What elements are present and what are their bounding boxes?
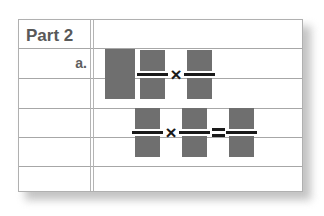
fraction-term	[182, 108, 207, 157]
redacted-numerator-block	[140, 50, 165, 71]
fraction-term	[135, 108, 160, 157]
fraction-bar	[226, 131, 257, 134]
expression-row-2: ×	[135, 106, 254, 158]
fraction-term	[187, 50, 212, 99]
problem-item-label: a.	[26, 55, 87, 72]
fraction-term	[229, 108, 254, 157]
redacted-whole-number-block	[105, 49, 135, 99]
redacted-denominator-block	[187, 78, 212, 99]
fraction-bar	[179, 131, 210, 134]
fraction-term	[140, 50, 165, 99]
fraction-bar	[184, 73, 215, 76]
expression-row-1: ×	[105, 48, 212, 100]
rule-line-5	[19, 166, 302, 167]
equals-bar-bottom	[212, 134, 225, 137]
redacted-denominator-block	[229, 136, 254, 157]
margin-line-outer	[90, 20, 91, 191]
margin-line-inner	[93, 20, 94, 191]
page-title: Part 2	[26, 25, 88, 46]
fraction-bar	[137, 73, 168, 76]
redacted-denominator-block	[140, 78, 165, 99]
equals-bar-top	[212, 128, 225, 131]
redacted-numerator-block	[229, 108, 254, 129]
redacted-numerator-block	[187, 50, 212, 71]
redacted-denominator-block	[135, 136, 160, 157]
fraction-bar	[132, 131, 163, 134]
redacted-numerator-block	[182, 108, 207, 129]
worksheet-card: Part 2 a. × ×	[18, 19, 303, 192]
redacted-numerator-block	[135, 108, 160, 129]
redacted-denominator-block	[182, 136, 207, 157]
